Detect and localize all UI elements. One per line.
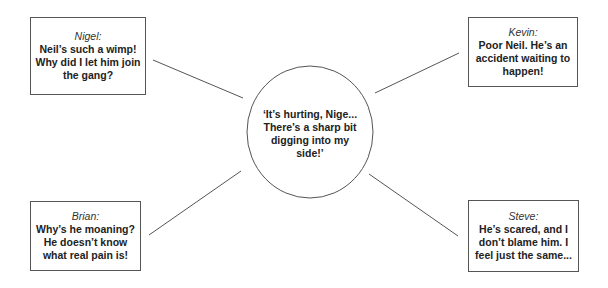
steve-box: Steve: He’s scared, and I don’t blame hi…	[468, 200, 579, 272]
speaker-quote: Neil’s such a wimp! Why did I let him jo…	[35, 43, 141, 82]
connector-brian	[149, 171, 241, 235]
speaker-name: Steve:	[509, 210, 539, 223]
connector-kevin	[375, 53, 459, 93]
speaker-quote: He’s scared, and I don’t blame him. I fe…	[473, 223, 574, 262]
speaker-name: Brian:	[72, 210, 99, 223]
brian-box: Brian: Why’s he moaning? He doesn’t know…	[30, 201, 141, 271]
speaker-name: Nigel:	[75, 30, 102, 43]
speaker-name: Kevin:	[508, 26, 537, 39]
connector-steve	[369, 174, 458, 236]
center-quote: ‘It’s hurting, Nige... There’s a sharp b…	[256, 108, 364, 160]
kevin-box: Kevin: Poor Neil. He’s an accident waiti…	[468, 17, 578, 87]
nigel-box: Nigel: Neil’s such a wimp! Why did I let…	[30, 17, 146, 95]
connector-nigel	[153, 60, 243, 98]
speaker-quote: Poor Neil. He’s an accident waiting to h…	[473, 39, 573, 78]
speaker-quote: Why’s he moaning? He doesn’t know what r…	[35, 223, 136, 262]
